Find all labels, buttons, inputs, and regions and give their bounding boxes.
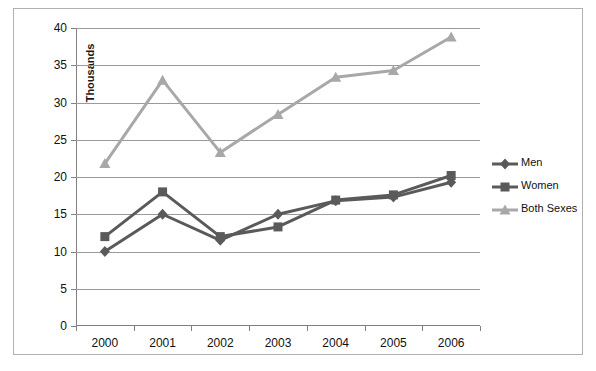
x-axis-tick-mark bbox=[249, 326, 250, 331]
data-point-marker bbox=[447, 171, 456, 180]
y-axis-tick-label: 15 bbox=[54, 207, 67, 221]
x-axis-tick-label: 2003 bbox=[265, 336, 292, 350]
data-point-marker bbox=[158, 187, 167, 196]
y-axis-tick-label: 10 bbox=[54, 245, 67, 259]
x-axis-tick-label: 2002 bbox=[207, 336, 234, 350]
data-point-marker bbox=[331, 196, 340, 205]
y-axis-tick-label: 25 bbox=[54, 133, 67, 147]
data-point-marker bbox=[500, 158, 510, 169]
y-axis-tick-label: 20 bbox=[54, 170, 67, 184]
data-point-marker bbox=[389, 190, 398, 199]
legend-label: Both Sexes bbox=[521, 202, 577, 214]
legend-item-women[interactable]: Women bbox=[492, 173, 578, 196]
plot-area: 4035302520151050 20002001200220032004200… bbox=[76, 28, 480, 326]
data-point-marker bbox=[274, 222, 283, 231]
data-point-marker bbox=[446, 31, 457, 41]
series-layer bbox=[76, 28, 480, 326]
legend-item-men[interactable]: Men bbox=[492, 150, 578, 173]
cropped-text-sliver bbox=[0, 0, 596, 7]
legend-marker-square-icon bbox=[492, 179, 518, 191]
x-axis-tick-mark bbox=[307, 326, 308, 331]
x-axis-tick-mark bbox=[134, 326, 135, 331]
y-axis-tick-label: 0 bbox=[60, 319, 67, 333]
x-axis-tick-label: 2005 bbox=[380, 336, 407, 350]
x-axis-tick-label: 2001 bbox=[149, 336, 176, 350]
y-axis-title-wrapper: Thousands bbox=[36, 49, 52, 169]
chart-legend: MenWomenBoth Sexes bbox=[492, 150, 578, 219]
series-men bbox=[100, 177, 456, 257]
x-axis-tick-label: 2000 bbox=[91, 336, 118, 350]
legend-marker-triangle-icon bbox=[492, 202, 518, 214]
x-axis-tick-mark bbox=[480, 326, 481, 331]
x-axis-tick-mark bbox=[422, 326, 423, 331]
x-axis-tick-mark bbox=[76, 326, 77, 331]
series-women bbox=[100, 171, 455, 241]
legend-label: Women bbox=[521, 179, 559, 191]
legend-item-both-sexes[interactable]: Both Sexes bbox=[492, 196, 578, 219]
y-axis-tick-label: 5 bbox=[60, 282, 67, 296]
x-axis-tick-mark bbox=[191, 326, 192, 331]
x-axis-tick-label: 2006 bbox=[438, 336, 465, 350]
legend-label: Men bbox=[521, 156, 542, 168]
data-point-marker bbox=[501, 182, 510, 191]
data-point-marker bbox=[100, 232, 109, 241]
legend-marker-diamond-icon bbox=[492, 156, 518, 168]
x-axis-tick-mark bbox=[365, 326, 366, 331]
x-axis-tick-label: 2004 bbox=[322, 336, 349, 350]
series-line bbox=[105, 37, 451, 164]
series-both-sexes bbox=[99, 31, 456, 168]
data-point-marker bbox=[273, 209, 283, 220]
data-point-marker bbox=[157, 75, 168, 85]
y-axis-tick-label: 40 bbox=[54, 21, 67, 35]
y-axis-tick-label: 30 bbox=[54, 96, 67, 110]
data-point-marker bbox=[216, 232, 225, 241]
y-axis-tick-label: 35 bbox=[54, 58, 67, 72]
